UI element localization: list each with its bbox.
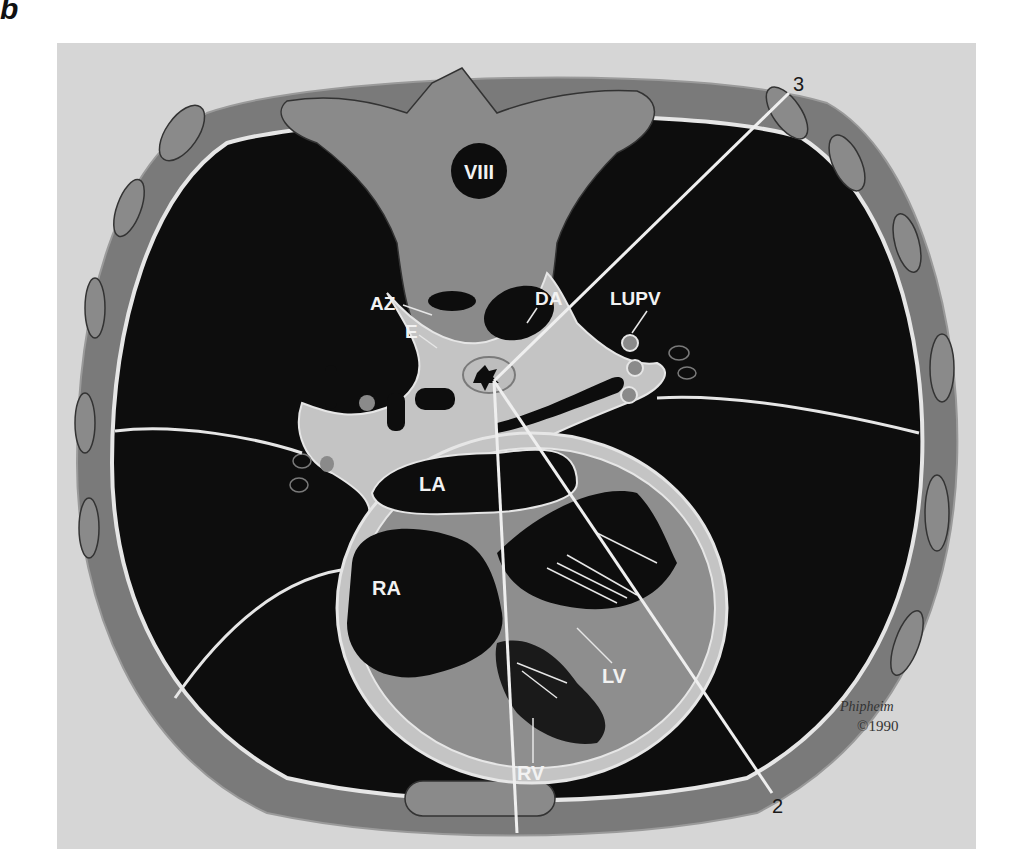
bronchus — [415, 388, 455, 410]
label-la: LA — [419, 473, 446, 495]
label-rv: RV — [517, 762, 545, 784]
rib — [79, 498, 99, 558]
vessel — [622, 335, 638, 351]
label-vertebra: VIII — [464, 161, 494, 183]
vessel — [359, 395, 375, 411]
thorax-cross-section: VIII LA RA LV RV — [57, 43, 976, 849]
vessel — [290, 478, 308, 492]
diagram-panel: VIII LA RA LV RV — [57, 43, 976, 849]
label-az: AZ — [370, 293, 396, 314]
scan-line-3-number: 3 — [793, 73, 804, 95]
vessel — [678, 367, 696, 379]
rib — [85, 278, 105, 338]
rib — [925, 475, 949, 551]
vessel — [627, 360, 643, 376]
label-lv: LV — [602, 665, 627, 687]
label-ra: RA — [372, 577, 401, 599]
panel-letter: b — [0, 0, 18, 26]
label-e: E — [405, 321, 418, 342]
azygos-vein — [428, 291, 476, 311]
label-da: DA — [535, 288, 563, 309]
vessel — [293, 454, 311, 468]
copyright: ©1990 — [857, 718, 898, 734]
vessel — [621, 387, 637, 403]
vessel — [320, 456, 334, 472]
vessel — [669, 346, 689, 360]
rib — [75, 393, 95, 453]
scan-line-2-number: 2 — [772, 795, 783, 817]
bronchus — [387, 393, 405, 431]
label-lupv: LUPV — [610, 288, 661, 309]
bronchus — [325, 365, 337, 409]
rib — [930, 334, 954, 402]
artist-signature: Phipheim — [839, 699, 894, 714]
sternum — [405, 781, 555, 816]
